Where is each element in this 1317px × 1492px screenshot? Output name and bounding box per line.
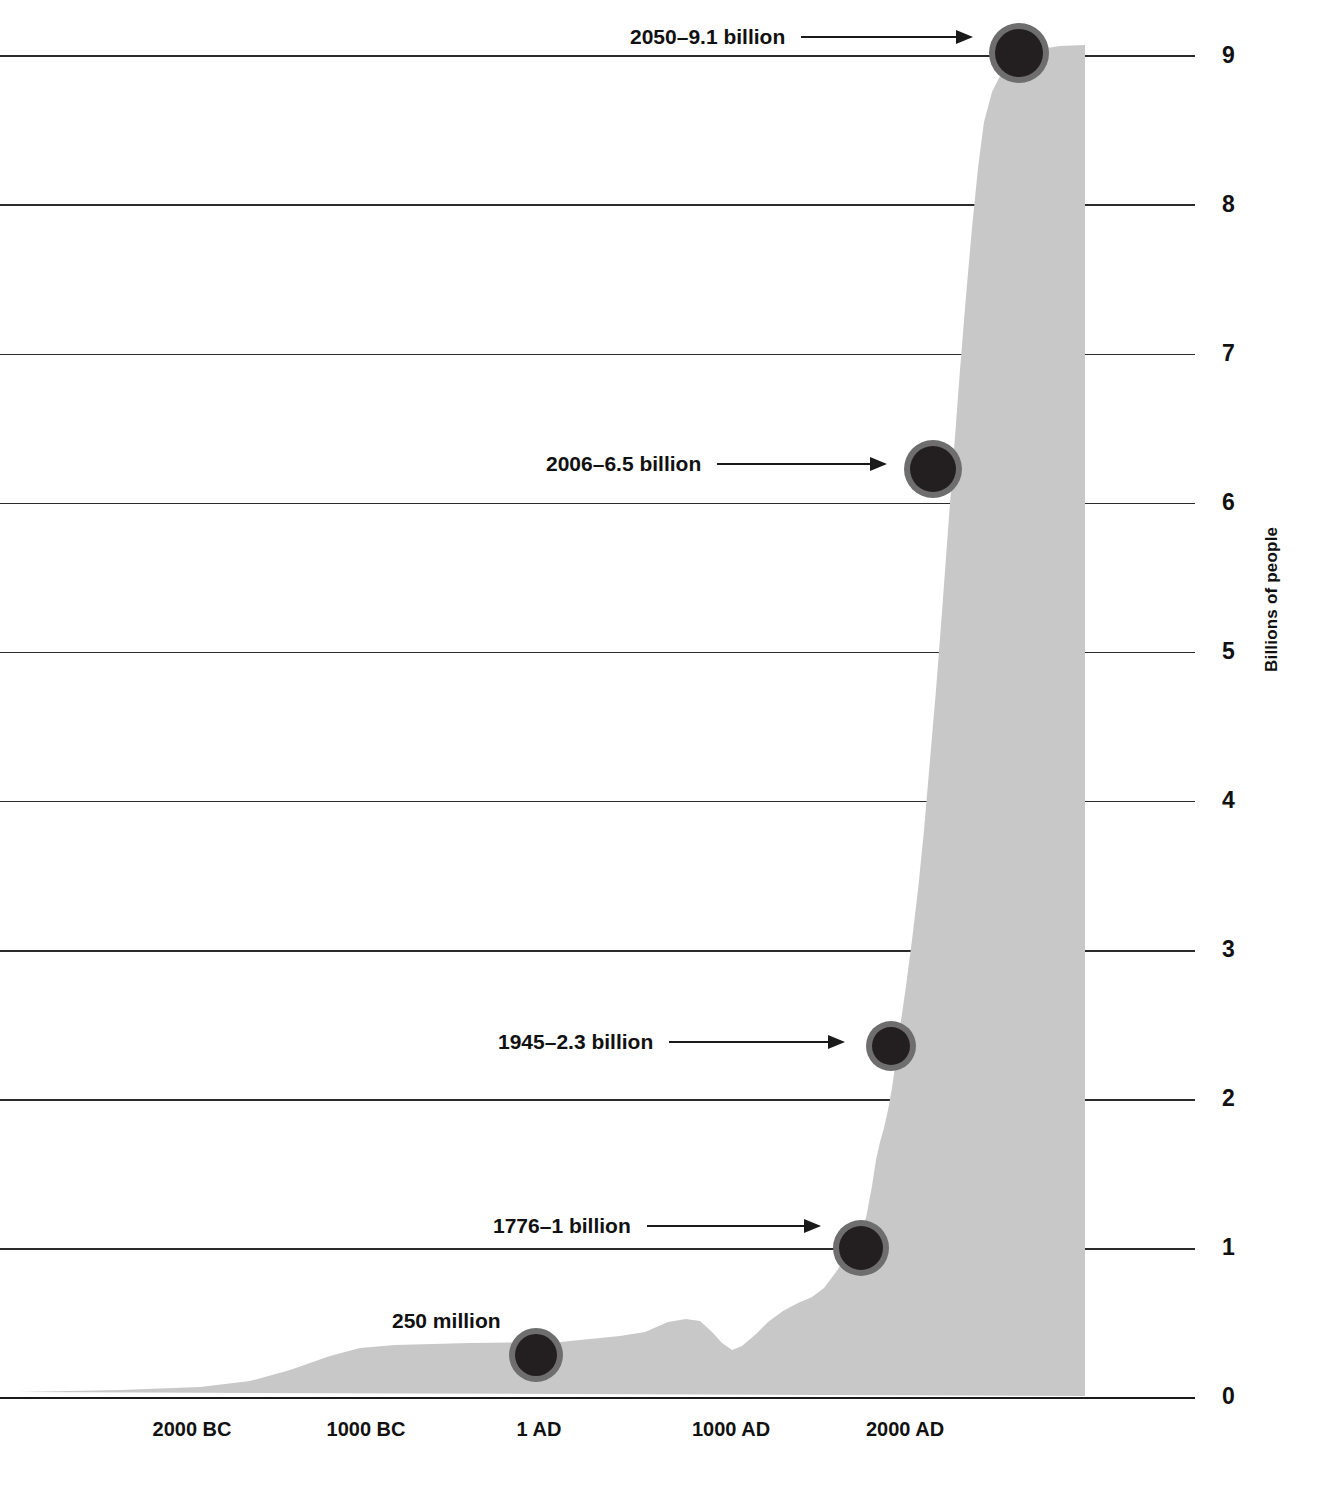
y-tick-label-4: 4 [1222, 789, 1262, 812]
y-tick-label-3: 3 [1222, 938, 1262, 961]
annotation-2006-label: 2006–6.5 billion [546, 452, 701, 476]
annotation-250-million-label: 250 million [392, 1309, 501, 1333]
y-tick-label-9: 9 [1222, 44, 1262, 67]
marker-250-million [509, 1328, 563, 1382]
y-tick-label-1: 1 [1222, 1236, 1262, 1259]
annotation-2006-arrow-icon [717, 463, 885, 465]
y-tick-label-7: 7 [1222, 342, 1262, 365]
annotation-1776: 1776–1 billion [493, 1214, 819, 1238]
annotation-1945: 1945–2.3 billion [498, 1030, 843, 1054]
annotation-1776-label: 1776–1 billion [493, 1214, 631, 1238]
y-axis-title: Billions of people [1262, 472, 1282, 672]
x-tick-label-1000ad: 1000 AD [651, 1418, 811, 1441]
annotation-2050: 2050–9.1 billion [630, 25, 971, 49]
annotation-1945-label: 1945–2.3 billion [498, 1030, 653, 1054]
y-tick-label-0: 0 [1222, 1385, 1262, 1408]
population-growth-chart: 9 8 7 6 5 4 3 2 1 0 Billions of people 2… [0, 0, 1317, 1492]
y-tick-label-8: 8 [1222, 193, 1262, 216]
annotation-250-million: 250 million [392, 1309, 501, 1333]
x-tick-label-1000bc: 1000 BC [286, 1418, 446, 1441]
marker-2050 [989, 23, 1049, 83]
population-area [18, 45, 1085, 1396]
y-tick-label-5: 5 [1222, 640, 1262, 663]
annotation-1776-arrow-icon [647, 1225, 819, 1227]
marker-1776 [833, 1220, 889, 1276]
annotation-2050-arrow-icon [801, 36, 971, 38]
chart-plot-area [0, 0, 1317, 1492]
annotation-2006: 2006–6.5 billion [546, 452, 885, 476]
y-tick-label-6: 6 [1222, 491, 1262, 514]
marker-2006 [904, 440, 962, 498]
annotation-1945-arrow-icon [669, 1041, 843, 1043]
annotation-2050-label: 2050–9.1 billion [630, 25, 785, 49]
marker-1945 [866, 1021, 916, 1071]
x-tick-label-2000ad: 2000 AD [825, 1418, 985, 1441]
y-tick-label-2: 2 [1222, 1087, 1262, 1110]
x-tick-label-2000bc: 2000 BC [112, 1418, 272, 1441]
x-tick-label-1ad: 1 AD [459, 1418, 619, 1441]
